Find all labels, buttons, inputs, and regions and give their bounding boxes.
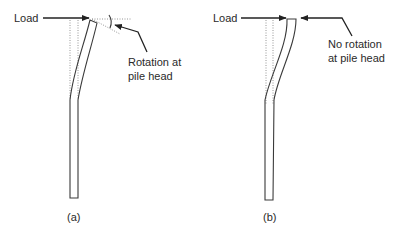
deflected-pile-a bbox=[70, 20, 97, 198]
caption-b: (b) bbox=[263, 211, 276, 223]
annotation-line2-b: at pile head bbox=[328, 52, 385, 64]
load-label-b: Load bbox=[213, 12, 237, 24]
no-rotation-annotation-arrow bbox=[301, 18, 352, 36]
caption-a: (a) bbox=[67, 211, 80, 223]
rotation-angle-arc bbox=[109, 15, 111, 28]
pile-head-rotation-diagram: Load Rotation at pile head (a) Load No r… bbox=[0, 0, 396, 235]
panel-b: Load No rotation at pile head (b) bbox=[213, 12, 385, 223]
load-label-a: Load bbox=[14, 12, 38, 24]
annotation-line2-a: pile head bbox=[128, 70, 173, 82]
rotation-annotation-arrow bbox=[115, 25, 147, 52]
panel-a: Load Rotation at pile head (a) bbox=[14, 12, 181, 223]
annotation-line1-a: Rotation at bbox=[128, 56, 181, 68]
deflected-pile-b bbox=[265, 19, 296, 200]
annotation-line1-b: No rotation bbox=[328, 38, 382, 50]
